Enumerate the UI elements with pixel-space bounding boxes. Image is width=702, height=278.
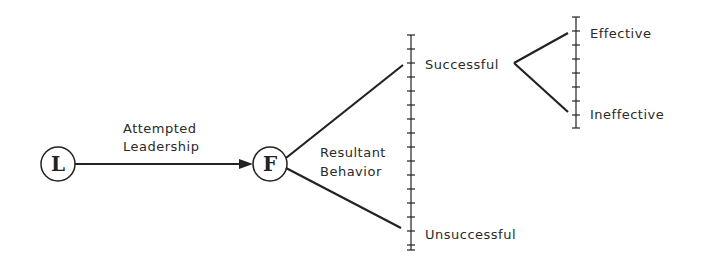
- successful-label: Successful: [425, 56, 499, 73]
- effective-label: Effective: [590, 25, 651, 42]
- behavior-scale: [407, 35, 415, 250]
- resultant-label-line2: Behavior: [320, 163, 382, 180]
- attempted-label-line2: Leadership: [123, 138, 199, 155]
- attempted-label-line1: Attempted: [123, 120, 197, 137]
- ineffective-branch-line: [514, 63, 568, 112]
- unsuccessful-label: Unsuccessful: [425, 226, 516, 243]
- arrowhead-icon: [239, 159, 253, 169]
- effective-branch-line: [514, 33, 568, 63]
- effectiveness-scale: [572, 17, 580, 128]
- resultant-label-line1: Resultant: [320, 144, 386, 161]
- ineffective-label: Ineffective: [590, 106, 664, 123]
- leader-node-label: L: [41, 147, 75, 181]
- follower-node-label: F: [253, 147, 287, 181]
